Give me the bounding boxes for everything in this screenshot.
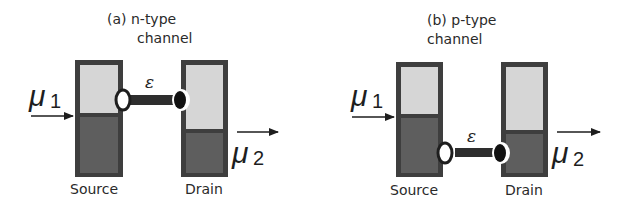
panel-a-drain-label: Drain	[185, 181, 223, 197]
filled-level-icon	[494, 144, 506, 162]
panel-b-epsilon: ε	[467, 126, 476, 146]
panel-b-mu2: μ 2	[551, 132, 600, 170]
panel-b-source-reservoir	[396, 62, 443, 177]
svg-text:1: 1	[50, 90, 61, 112]
open-level-icon	[116, 90, 130, 110]
panel-b-mu1: μ 1	[350, 79, 394, 117]
panel-a-mu1: μ 1	[28, 79, 73, 116]
filled-level-icon	[174, 91, 186, 109]
transistor-diagram: (a) n-type channel ε μ 1	[0, 0, 629, 216]
svg-text:μ: μ	[231, 136, 248, 169]
panel-a-title-line1: (a) n-type	[107, 11, 176, 27]
panel-a-epsilon: ε	[145, 72, 154, 92]
panel-b: (b) p-type channel ε μ 1	[350, 12, 600, 198]
panel-b-drain-label: Drain	[505, 182, 543, 198]
panel-a-source-label: Source	[70, 181, 118, 197]
panel-a-mu2: μ 2	[231, 132, 278, 169]
panel-b-source-label: Source	[390, 182, 438, 198]
panel-a-drain-reservoir	[181, 60, 228, 177]
panel-a-title-line2: channel	[137, 30, 192, 46]
svg-text:μ: μ	[350, 79, 367, 112]
svg-text:μ: μ	[28, 79, 45, 112]
svg-text:2: 2	[253, 147, 264, 169]
svg-text:μ: μ	[551, 136, 568, 169]
svg-text:2: 2	[573, 148, 584, 170]
panel-b-title-line2: channel	[427, 31, 482, 47]
panel-b-title-line1: (b) p-type	[427, 12, 496, 28]
panel-a-source-reservoir	[75, 60, 123, 177]
svg-text:1: 1	[372, 90, 383, 112]
open-level-icon	[438, 143, 452, 163]
panel-a: (a) n-type channel ε μ 1	[28, 11, 278, 197]
panel-a-channel	[116, 89, 190, 111]
